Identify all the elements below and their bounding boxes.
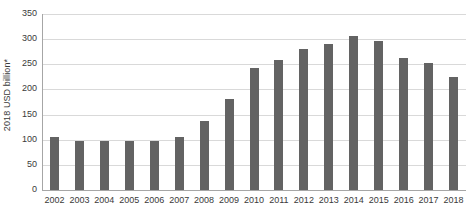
x-axis-tick-label: 2016 <box>394 195 414 205</box>
x-axis-tick-labels: 2002200320042005200620072008200920102011… <box>42 192 466 210</box>
x-axis-tick-label: 2014 <box>344 195 364 205</box>
y-axis-tick-label: 200 <box>22 84 37 93</box>
bar <box>150 141 159 190</box>
bar <box>75 141 84 190</box>
y-axis-tick-label: 50 <box>27 160 37 169</box>
bar <box>125 141 134 190</box>
bars-layer <box>42 14 466 190</box>
bar <box>349 36 358 190</box>
x-axis-tick-label: 2003 <box>69 195 89 205</box>
y-axis-tick-label: 0 <box>32 185 37 194</box>
bar <box>424 63 433 190</box>
bar <box>225 99 234 190</box>
x-axis-tick-label: 2009 <box>219 195 239 205</box>
bar-chart: 2018 USD billion* 050100150200250300350 … <box>0 0 471 213</box>
x-axis-tick-label: 2018 <box>444 195 464 205</box>
x-axis-tick-label: 2012 <box>294 195 314 205</box>
y-axis-title: 2018 USD billion* <box>0 0 14 190</box>
y-axis-tick-label: 350 <box>22 9 37 18</box>
x-axis-line <box>42 190 466 191</box>
y-axis-tick-label: 150 <box>22 110 37 119</box>
x-axis-tick-label: 2011 <box>269 195 288 205</box>
y-axis-tick-label: 100 <box>22 135 37 144</box>
x-axis-tick-label: 2008 <box>194 195 214 205</box>
x-axis-tick-label: 2013 <box>319 195 339 205</box>
bar <box>200 121 209 190</box>
bar <box>299 49 308 190</box>
bar <box>449 77 458 190</box>
bar <box>274 60 283 190</box>
x-axis-tick-label: 2010 <box>244 195 264 205</box>
bar <box>50 137 59 190</box>
y-axis-tick-labels: 050100150200250300350 <box>14 0 40 200</box>
bar <box>100 141 109 190</box>
x-axis-tick-label: 2007 <box>169 195 189 205</box>
x-axis-tick-label: 2002 <box>44 195 64 205</box>
x-axis-tick-label: 2004 <box>94 195 114 205</box>
y-axis-tick-label: 300 <box>22 34 37 43</box>
bar <box>324 44 333 190</box>
y-axis-title-label: 2018 USD billion* <box>2 59 12 131</box>
x-axis-tick-label: 2015 <box>369 195 389 205</box>
bar <box>250 68 259 190</box>
x-axis-tick-label: 2006 <box>144 195 164 205</box>
bar <box>374 41 383 190</box>
x-axis-tick-label: 2005 <box>119 195 139 205</box>
bar <box>399 58 408 190</box>
y-axis-tick-label: 250 <box>22 59 37 68</box>
x-axis-tick-label: 2017 <box>419 195 439 205</box>
bar <box>175 137 184 190</box>
